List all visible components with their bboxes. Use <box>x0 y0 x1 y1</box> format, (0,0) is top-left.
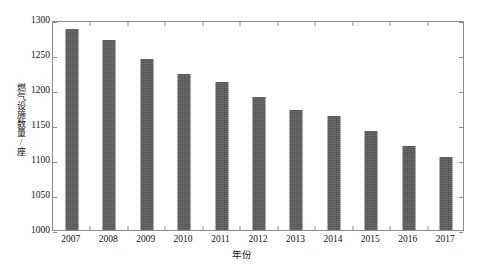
y-axis-tick-label: 1300 <box>20 16 50 26</box>
bar <box>365 131 378 230</box>
bar <box>402 146 415 230</box>
y-axis-tick-mark-right <box>459 22 463 23</box>
bar <box>178 74 191 230</box>
x-axis-tick-mark-top <box>277 22 278 26</box>
x-axis-tick-label: 2009 <box>126 234 166 245</box>
y-axis-tick-mark <box>53 127 57 128</box>
x-axis-tick-label: 2013 <box>275 234 315 245</box>
y-axis-tick-label: 1100 <box>20 156 50 166</box>
x-axis-tick-mark-top <box>165 22 166 26</box>
y-axis-tick-mark <box>53 92 57 93</box>
x-axis-tick-mark <box>352 226 353 230</box>
x-axis-tick-mark-top <box>427 22 428 26</box>
x-axis-tick-mark <box>127 226 128 230</box>
y-axis-tick-mark-right <box>459 57 463 58</box>
bar <box>253 97 266 230</box>
x-axis-tick-mark-top <box>127 22 128 26</box>
x-axis-tick-mark-top <box>90 22 91 26</box>
y-axis-tick-mark <box>53 57 57 58</box>
y-axis-tick-mark-right <box>459 127 463 128</box>
x-axis-tick-mark <box>277 226 278 230</box>
x-axis-tick-mark-top <box>390 22 391 26</box>
bar <box>327 116 340 230</box>
y-axis-tick-mark <box>53 22 57 23</box>
y-axis-tick-label: 1050 <box>20 191 50 201</box>
x-axis-tick-labels: 2007200820092010201120122013201420152016… <box>52 234 464 248</box>
bar <box>140 59 153 231</box>
x-axis-tick-mark <box>427 226 428 230</box>
x-axis-tick-label: 2011 <box>201 234 241 245</box>
x-axis-tick-mark <box>390 226 391 230</box>
x-axis-tick-mark-top <box>202 22 203 26</box>
bar <box>440 157 453 230</box>
bar <box>215 82 228 230</box>
x-axis-tick-mark-top <box>240 22 241 26</box>
y-axis-tick-label: 1200 <box>20 86 50 96</box>
y-axis-tick-labels: 1000105011001150120012501300 <box>20 0 50 275</box>
x-axis-tick-label: 2007 <box>51 234 91 245</box>
x-axis-tick-mark <box>165 226 166 230</box>
x-axis-tick-label: 2016 <box>388 234 428 245</box>
x-axis-tick-mark-top <box>315 22 316 26</box>
x-axis-tick-label: 2008 <box>88 234 128 245</box>
y-axis-tick-mark-right <box>459 197 463 198</box>
x-axis-tick-mark-top <box>352 22 353 26</box>
y-axis-tick-mark <box>53 197 57 198</box>
y-axis-tick-label: 1150 <box>20 121 50 131</box>
x-axis-tick-label: 2017 <box>425 234 465 245</box>
x-axis-tick-mark <box>202 226 203 230</box>
bar-chart-figure: 燃气设施数量/座 1000105011001150120012501300 20… <box>0 0 484 275</box>
plot-area <box>52 21 464 231</box>
y-axis-tick-label: 1000 <box>20 226 50 236</box>
bar <box>290 110 303 230</box>
y-axis-tick-mark-right <box>459 232 463 233</box>
bar <box>65 29 78 230</box>
y-axis-tick-mark-right <box>459 92 463 93</box>
x-axis-tick-mark <box>240 226 241 230</box>
y-axis-tick-mark <box>53 162 57 163</box>
x-axis-tick-mark <box>90 226 91 230</box>
x-axis-tick-label: 2015 <box>350 234 390 245</box>
x-axis-tick-label: 2014 <box>313 234 353 245</box>
x-axis-tick-mark <box>315 226 316 230</box>
y-axis-tick-mark-right <box>459 162 463 163</box>
x-axis-title: 年份 <box>0 250 484 261</box>
bar <box>103 40 116 230</box>
x-axis-tick-label: 2010 <box>163 234 203 245</box>
y-axis-tick-label: 1250 <box>20 51 50 61</box>
x-axis-tick-label: 2012 <box>238 234 278 245</box>
y-axis-tick-mark <box>53 232 57 233</box>
